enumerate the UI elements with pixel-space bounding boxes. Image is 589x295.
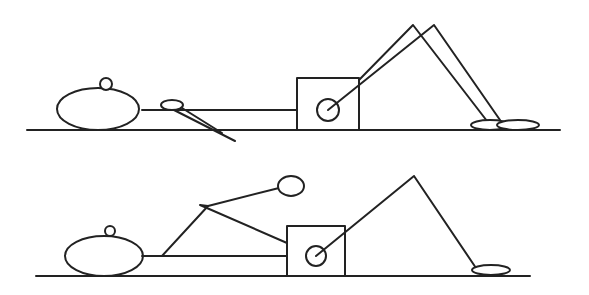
foot-ellipse (472, 265, 510, 275)
bottom-figure (36, 176, 530, 276)
body-ellipse (65, 236, 143, 276)
arm-line (200, 205, 287, 243)
body-ellipse (57, 88, 139, 130)
hand-ellipse (278, 176, 304, 196)
leg-line (316, 176, 476, 268)
arm-line (162, 188, 279, 256)
foot-ellipse (497, 120, 539, 130)
hip-box (297, 78, 359, 130)
head-circle (105, 226, 115, 236)
top-figure (27, 25, 560, 141)
arm-line (174, 110, 235, 141)
hand-ellipse (161, 100, 183, 110)
hip-box (287, 226, 345, 276)
exercise-diagram (0, 0, 589, 295)
head-circle (100, 78, 112, 90)
